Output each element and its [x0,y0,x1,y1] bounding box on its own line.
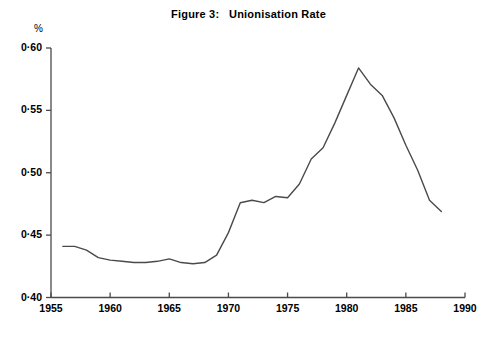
x-axis-tick-marks [51,293,465,298]
unionisation-rate-line [63,68,442,264]
figure-container: Figure 3: Unionisation Rate % 0·600·550·… [0,0,497,338]
x-axis-tick-label: 1985 [386,302,426,314]
x-axis-tick-label: 1965 [149,302,189,314]
x-axis-tick-label: 1970 [208,302,248,314]
y-axis-tick-label: 0·50 [8,166,42,178]
y-axis-tick-marks [46,48,51,298]
x-axis-tick-label: 1980 [327,302,367,314]
y-axis-tick-label: 0·45 [8,228,42,240]
x-axis-tick-label: 1955 [31,302,71,314]
x-axis-tick-label: 1960 [90,302,130,314]
y-axis-tick-label: 0·60 [8,41,42,53]
x-axis-tick-label: 1975 [268,302,308,314]
x-axis-tick-label: 1990 [445,302,485,314]
y-axis-tick-label: 0·55 [8,103,42,115]
chart-plot-area [0,0,497,338]
